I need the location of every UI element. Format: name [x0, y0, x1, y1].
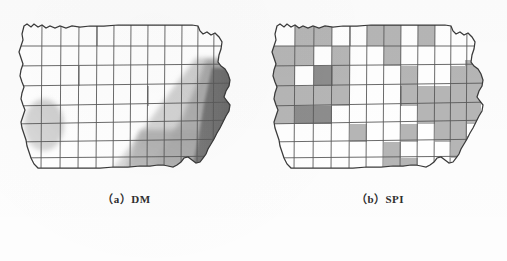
spi-county [401, 158, 418, 170]
spi-county [384, 142, 401, 158]
spi-county-dark [295, 106, 314, 124]
spi-county [314, 22, 332, 46]
spi-county [314, 86, 332, 106]
spi-county [451, 106, 467, 124]
caption-spi: （b）SPI [253, 190, 507, 206]
panel-dm: （a）DM [0, 0, 253, 261]
spi-county [467, 86, 481, 106]
spi-county [332, 46, 350, 66]
spi-county-dark [314, 106, 332, 124]
spi-county [265, 46, 295, 66]
iowa-map-spi [253, 0, 507, 190]
iowa-map-dm [0, 0, 253, 190]
spi-county-dark [314, 66, 332, 86]
spi-county [265, 106, 295, 124]
spi-county [401, 124, 418, 142]
spi-county [265, 66, 295, 86]
spi-county [295, 46, 314, 66]
spi-county [295, 22, 314, 46]
spi-county [401, 66, 418, 86]
spi-county [384, 46, 401, 66]
spi-county [295, 86, 314, 106]
spi-county [332, 66, 350, 86]
dm-band-light-west [24, 99, 64, 151]
spi-county [350, 124, 367, 142]
spi-county [451, 142, 467, 158]
spi-county [265, 86, 295, 106]
figure-container: （a）DM [0, 0, 507, 261]
caption-dm: （a）DM [0, 190, 253, 206]
spi-county [332, 86, 350, 106]
spi-county [384, 158, 401, 170]
spi-county [467, 136, 483, 166]
panel-spi: （b）SPI [253, 0, 507, 261]
